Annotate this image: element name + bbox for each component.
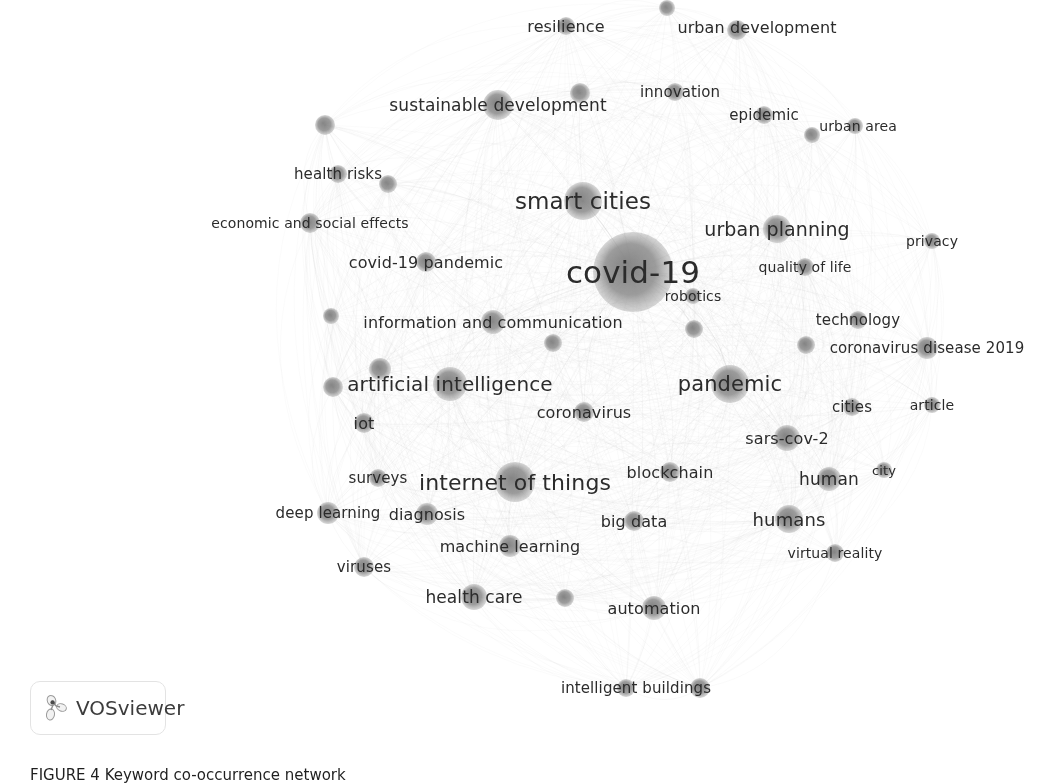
vosviewer-logo-text: VOSviewer bbox=[76, 696, 184, 720]
vosviewer-cluster-icon bbox=[43, 694, 69, 722]
vosviewer-logo-badge[interactable]: VOSviewer bbox=[30, 681, 166, 735]
figure-caption: FIGURE 4 Keyword co-occurrence network bbox=[30, 766, 346, 783]
vosviewer-network-visualization[interactable]: resilienceurban developmentinnovationsus… bbox=[0, 0, 1057, 783]
network-graph-canvas[interactable] bbox=[0, 0, 1057, 783]
